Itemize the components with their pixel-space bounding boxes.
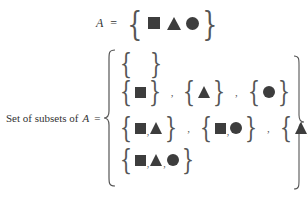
subset-row-singletons: { } , { } , { } (117, 80, 292, 104)
subset-row-pairs: { , } , { , } , { , } (117, 116, 308, 140)
separator: , (227, 126, 230, 137)
subset-circle: { } (245, 80, 293, 104)
circle-icon (263, 86, 275, 98)
square-icon (215, 123, 226, 134)
right-brace: } (245, 116, 257, 140)
subset-square-triangle: { , } (117, 116, 180, 140)
separator: , (187, 122, 190, 134)
left-brace: { (120, 52, 132, 76)
right-brace: } (277, 80, 289, 104)
triangle-icon (167, 17, 181, 30)
left-brace: { (120, 116, 132, 140)
separator: , (171, 86, 174, 98)
right-brace: } (149, 80, 161, 104)
circle-icon (186, 17, 199, 30)
right-brace: } (202, 9, 217, 37)
equals-sign: = (110, 16, 117, 31)
power-set-equals: = (94, 112, 100, 124)
left-brace: { (183, 80, 195, 104)
right-brace: } (150, 52, 162, 76)
separator: , (163, 158, 166, 169)
subset-triangle: { } (180, 80, 228, 104)
separator: , (147, 158, 150, 169)
subset-triangle-circle: { , } (277, 116, 308, 140)
subset-empty: { } (117, 52, 165, 76)
power-set-symbol: A (82, 112, 89, 124)
power-set-label-text: Set of subsets of (6, 112, 78, 124)
subset-row-empty: { } (117, 52, 165, 76)
set-a-definition: A = { } (96, 9, 220, 37)
triangle-icon (295, 122, 307, 134)
square-icon (135, 123, 146, 134)
separator: , (235, 86, 238, 98)
circle-icon (167, 154, 179, 166)
left-brace: { (120, 148, 132, 172)
subset-square-triangle-circle: { , , } (117, 148, 197, 172)
subset-square: { } (117, 80, 164, 104)
right-brace: } (213, 80, 225, 104)
square-icon (148, 17, 160, 29)
square-icon (135, 87, 146, 98)
big-left-brace (103, 49, 117, 187)
circle-icon (230, 122, 242, 134)
subset-square-circle: { , } (197, 116, 260, 140)
power-set-label: Set of subsets of A = (6, 112, 100, 124)
triangle-icon (198, 86, 210, 98)
triangle-icon (150, 122, 162, 134)
left-brace: { (127, 9, 142, 37)
right-brace: } (165, 116, 177, 140)
triangle-icon (150, 154, 162, 166)
left-brace: { (120, 80, 132, 104)
square-icon (135, 155, 146, 166)
separator: , (147, 126, 150, 137)
set-a-symbol: A (96, 16, 103, 31)
left-brace: { (279, 116, 291, 140)
subset-row-full: { , , } (117, 148, 197, 172)
left-brace: { (247, 80, 259, 104)
separator: , (267, 122, 270, 134)
right-brace: } (182, 148, 194, 172)
left-brace: { (200, 116, 212, 140)
